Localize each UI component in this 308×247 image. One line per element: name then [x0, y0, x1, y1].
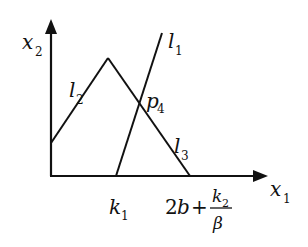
svg-text:3: 3: [181, 149, 189, 163]
tick-end-label: 2 b + k 2 β: [165, 186, 232, 233]
x-axis-arrow-icon: [253, 170, 268, 182]
svg-text:x: x: [270, 177, 281, 201]
line-l2-label: l 2: [69, 78, 84, 107]
x-axis-label: x 1: [270, 177, 291, 206]
point-p4-label: p 4: [146, 89, 165, 116]
line-l1-label: l 1: [168, 29, 183, 58]
svg-text:2: 2: [35, 45, 43, 59]
y-axis-label: x 2: [22, 30, 43, 59]
diagram-canvas: x 2 x 1 l 1 l 2 l 3 p 4 k 1 2 b + k 2 β: [0, 0, 308, 247]
y-axis-arrow-icon: [45, 19, 57, 34]
svg-text:x: x: [22, 30, 33, 54]
svg-text:l: l: [174, 134, 180, 158]
svg-text:1: 1: [121, 209, 129, 223]
svg-text:2: 2: [165, 195, 178, 219]
svg-text:4: 4: [157, 102, 165, 116]
tick-k1-label: k 1: [109, 195, 129, 223]
svg-text:β: β: [212, 213, 223, 233]
svg-text:+: +: [191, 195, 208, 219]
svg-text:1: 1: [283, 192, 291, 206]
line-l3-label: l 3: [174, 134, 189, 163]
svg-text:k: k: [109, 195, 121, 219]
svg-text:k: k: [212, 186, 222, 206]
svg-text:1: 1: [175, 44, 183, 58]
svg-text:2: 2: [76, 93, 84, 107]
svg-text:l: l: [168, 29, 174, 53]
svg-text:l: l: [69, 78, 75, 102]
svg-text:b: b: [177, 195, 190, 219]
